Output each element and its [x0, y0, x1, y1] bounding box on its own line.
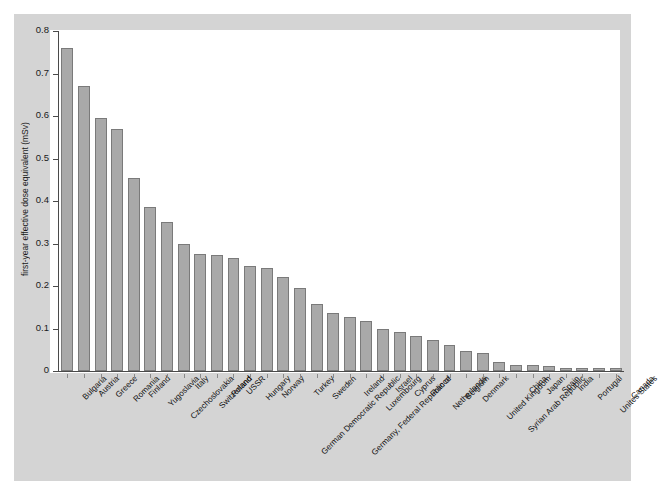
bar [460, 351, 472, 371]
bar [277, 277, 289, 371]
y-tick: 0.8 [53, 31, 58, 32]
x-tick-mark [150, 374, 151, 378]
bar [427, 340, 439, 371]
bar [593, 368, 605, 371]
x-tick-mark [366, 374, 367, 378]
bar [510, 365, 522, 371]
x-axis-tick-labels: BulgariaAustriaGreeceRomaniaFinlandYugos… [59, 374, 624, 484]
y-tick: 0.3 [53, 244, 58, 245]
y-tick-mark [53, 329, 58, 330]
y-tick: 0.2 [53, 286, 58, 287]
bar [477, 353, 489, 371]
bar [493, 362, 505, 371]
bar [527, 365, 539, 371]
y-tick-label: 0.2 [36, 279, 49, 290]
bar [444, 345, 456, 371]
x-tick-mark [549, 374, 550, 378]
x-tick-mark [433, 374, 434, 378]
bar [261, 268, 273, 371]
y-tick-label: 0 [44, 364, 49, 375]
x-tick-mark [300, 374, 301, 378]
bar [178, 244, 190, 372]
bar [576, 368, 588, 371]
bar [144, 207, 156, 371]
x-tick-mark [283, 374, 284, 378]
x-tick-mark [416, 374, 417, 378]
y-tick: 0.6 [53, 116, 58, 117]
x-tick-mark [582, 374, 583, 378]
bar [344, 317, 356, 371]
y-tick-mark [53, 244, 58, 245]
bar [294, 288, 306, 371]
x-tick-mark [450, 374, 451, 378]
y-tick-mark [53, 74, 58, 75]
y-tick-label: 0.8 [36, 24, 49, 35]
x-tick-mark [616, 374, 617, 378]
x-tick-mark [167, 374, 168, 378]
x-tick-mark [483, 374, 484, 378]
bar [543, 366, 555, 371]
y-tick: 0.4 [53, 201, 58, 202]
x-tick-mark [84, 374, 85, 378]
bar [95, 118, 107, 371]
bar [394, 332, 406, 371]
y-axis-title: first-year effective dose equivalent (mS… [20, 74, 34, 324]
y-tick: 0.5 [53, 159, 58, 160]
bar [161, 222, 173, 371]
y-tick-label: 0.3 [36, 237, 49, 248]
y-tick: 0.1 [53, 329, 58, 330]
bar [410, 336, 422, 371]
x-tick-mark [317, 374, 318, 378]
bar-series [59, 31, 624, 371]
x-tick-mark [267, 374, 268, 378]
bar [211, 255, 223, 371]
x-tick-mark [350, 374, 351, 378]
bar [327, 313, 339, 371]
y-tick-label: 0.4 [36, 194, 49, 205]
x-tick-mark [383, 374, 384, 378]
x-tick-mark [400, 374, 401, 378]
bar [244, 266, 256, 371]
y-tick-mark [53, 286, 58, 287]
y-tick-label: 0.7 [36, 67, 49, 78]
x-tick-mark [67, 374, 68, 378]
bar [128, 178, 140, 371]
y-tick-label: 0.1 [36, 322, 49, 333]
x-tick-mark [217, 374, 218, 378]
bar [311, 304, 323, 371]
y-tick-label: 0.6 [36, 109, 49, 120]
y-tick-mark [53, 159, 58, 160]
x-tick-mark [533, 374, 534, 378]
y-tick-label: 0.5 [36, 152, 49, 163]
bar [61, 48, 73, 371]
x-tick-mark [233, 374, 234, 378]
bar [194, 254, 206, 371]
x-axis-line [58, 371, 624, 372]
bar [610, 368, 622, 371]
bar [377, 329, 389, 371]
x-tick-mark [466, 374, 467, 378]
bar [560, 368, 572, 371]
x-tick-mark [117, 374, 118, 378]
x-tick-mark [101, 374, 102, 378]
bar [78, 86, 90, 371]
chart-figure: 00.10.20.30.40.50.60.70.8 first-year eff… [14, 14, 631, 481]
y-tick-mark [53, 371, 58, 372]
x-tick-mark [516, 374, 517, 378]
x-tick-label: Portugal [596, 374, 624, 402]
x-tick-mark [250, 374, 251, 378]
y-tick: 0.7 [53, 74, 58, 75]
bar [111, 129, 123, 371]
bar [360, 321, 372, 371]
x-tick-mark [184, 374, 185, 378]
bar [228, 258, 240, 371]
y-tick-mark [53, 201, 58, 202]
x-tick-mark [333, 374, 334, 378]
x-tick-mark [499, 374, 500, 378]
x-tick-mark [566, 374, 567, 378]
x-tick-mark [134, 374, 135, 378]
y-tick-mark [53, 31, 58, 32]
x-tick-mark [599, 374, 600, 378]
y-tick: 0 [53, 371, 58, 372]
x-tick-mark [200, 374, 201, 378]
